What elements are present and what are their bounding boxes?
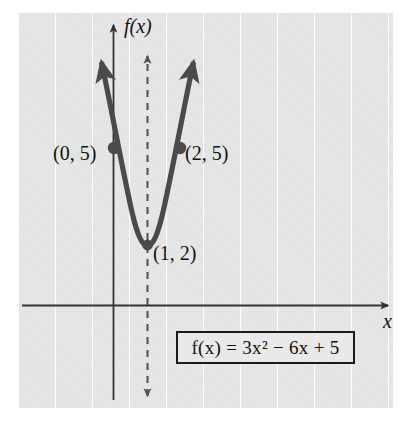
equation-text: f(x) = 3x² − 6x + 5	[191, 337, 339, 359]
quadratic-graph-figure: f(x) x (0, 5) (2, 5) (1, 2) f(x) = 3x² −…	[0, 0, 410, 425]
vertex-1-2-dot	[142, 240, 153, 251]
vertex-label: (1, 2)	[153, 243, 196, 263]
equation-box: f(x) = 3x² − 6x + 5	[176, 331, 355, 364]
point-label-left: (0, 5)	[53, 143, 96, 163]
point-label-right: (2, 5)	[185, 143, 228, 163]
x-axis-label: x	[383, 311, 392, 331]
point-0-5-dot	[108, 142, 120, 154]
y-axis-label: f(x)	[124, 16, 152, 36]
